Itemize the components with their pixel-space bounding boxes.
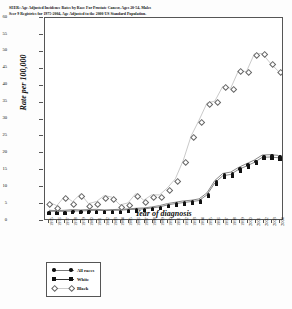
data-point-white <box>262 157 265 160</box>
y-axis-tick-mark <box>39 51 43 52</box>
data-point-white <box>207 195 210 198</box>
x-axis-tick-label: 1977 <box>66 217 70 226</box>
x-axis-tick-label: 2004 <box>281 217 285 226</box>
x-axis-tick-label: 2001 <box>257 217 261 226</box>
legend-symbol-all-races <box>51 266 75 275</box>
x-axis-title: Year of diagnosis <box>44 209 283 218</box>
y-axis-tick-label: 50 <box>0 48 7 53</box>
y-axis-tick-label: 25 <box>0 133 7 138</box>
x-axis-tick-label: 1984 <box>121 217 125 226</box>
x-axis-tick-label: 1989 <box>161 217 165 226</box>
x-axis-tick-label: 1985 <box>129 217 133 226</box>
y-axis-tick-mark <box>39 135 43 136</box>
y-axis-tick-label: 5 <box>0 201 7 206</box>
chart-title: SEER: Age Adjusted Incidence Rates by Ra… <box>9 6 224 18</box>
x-axis-tick-label: 1987 <box>145 217 149 226</box>
data-point-white <box>255 162 258 165</box>
y-axis-tick-label: 55 <box>0 32 7 37</box>
data-point-white <box>191 202 194 205</box>
x-axis-tick-label: 1996 <box>217 217 221 226</box>
y-axis-tick-label: 60 <box>0 15 7 20</box>
data-point-white <box>270 157 273 160</box>
line-black <box>49 54 278 206</box>
legend-item-white: White <box>51 275 94 284</box>
x-axis-tick-label: 1982 <box>106 217 110 226</box>
x-axis-tick-label: 1999 <box>241 217 245 226</box>
y-axis-tick-label: 30 <box>0 116 7 121</box>
y-axis-tick-label: 10 <box>0 184 7 189</box>
chart-legend: All races White Black <box>46 262 101 297</box>
data-point-white <box>167 205 170 208</box>
y-axis-tick-label: 0 <box>0 218 7 223</box>
y-axis-tick-mark <box>39 68 43 69</box>
x-axis-tick-label: 1979 <box>82 217 86 226</box>
x-axis-tick-label: 1986 <box>137 217 141 226</box>
x-axis-tick-label: 1978 <box>74 217 78 226</box>
data-point-white <box>278 157 281 160</box>
line-all-races <box>49 155 278 211</box>
x-axis-tick-label: 1981 <box>98 217 102 226</box>
legend-label-white: White <box>75 277 89 282</box>
x-axis-tick-label: 1983 <box>114 217 118 226</box>
x-axis-tick-label: 1990 <box>169 217 173 226</box>
y-axis-tick-mark <box>39 220 43 221</box>
y-axis-tick-mark <box>39 85 43 86</box>
y-axis-tick-label: 20 <box>0 150 7 155</box>
x-axis-tick-label: 1995 <box>209 217 213 226</box>
data-point-white <box>247 166 250 169</box>
x-axis-tick-label: 1975 <box>50 217 54 226</box>
y-axis-tick-mark <box>39 152 43 153</box>
y-axis-tick-mark <box>39 203 43 204</box>
data-point-white <box>223 176 226 179</box>
y-axis-tick-label: 40 <box>0 82 7 87</box>
x-axis-tick-label: 2000 <box>249 217 253 226</box>
legend-symbol-black <box>51 284 75 293</box>
data-point-white <box>215 183 218 186</box>
legend-label-black: Black <box>75 286 88 291</box>
x-axis-tick-label: 1988 <box>153 217 157 226</box>
y-axis-tick-mark <box>39 186 43 187</box>
plot-area <box>44 17 283 220</box>
y-axis-tick-mark <box>39 102 43 103</box>
x-axis-tick-label: 1998 <box>233 217 237 226</box>
y-axis-tick-mark <box>39 17 43 18</box>
data-point-white <box>199 201 202 204</box>
legend-symbol-white <box>51 275 75 284</box>
x-axis-tick-label: 1994 <box>201 217 205 226</box>
data-point-white <box>175 204 178 207</box>
x-axis-tick-label: 1993 <box>193 217 197 226</box>
data-point-white <box>239 169 242 172</box>
x-axis-tick-label: 1976 <box>58 217 62 226</box>
x-axis-tick-label: 1997 <box>225 217 229 226</box>
y-axis-tick-label: 35 <box>0 99 7 104</box>
y-axis-tick-mark <box>39 119 43 120</box>
y-axis-title: Rate per 100,000 <box>19 28 28 138</box>
chart-figure: Rate per 100,000 SEER: Age Adjusted Inci… <box>0 0 292 309</box>
x-axis-tick-label: 1992 <box>185 217 189 226</box>
x-axis-tick-label: 2003 <box>273 217 277 226</box>
y-axis-tick-mark <box>39 34 43 35</box>
data-point-white <box>231 174 234 177</box>
y-axis-tick-mark <box>39 169 43 170</box>
y-axis-tick-label: 45 <box>0 65 7 70</box>
legend-label-all-races: All races <box>75 268 94 273</box>
legend-item-all-races: All races <box>51 266 94 275</box>
x-axis-tick-label: 2002 <box>265 217 269 226</box>
data-point-white <box>183 203 186 206</box>
legend-item-black: Black <box>51 284 94 293</box>
x-axis-tick-label: 1980 <box>90 217 94 226</box>
x-axis-tick-label: 1991 <box>177 217 181 226</box>
series-lines <box>45 18 282 219</box>
y-axis-tick-label: 15 <box>0 167 7 172</box>
